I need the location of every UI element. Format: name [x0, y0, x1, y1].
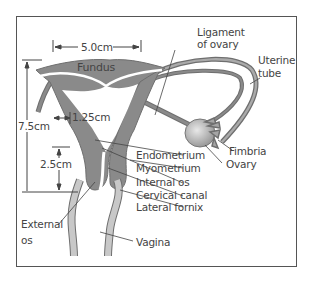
- height-label: 7.5cm: [18, 120, 50, 132]
- ligament-of-ovary-label-1: Ligament: [197, 26, 245, 38]
- fimbria-label: Fimbria: [229, 145, 266, 157]
- uterine-tube-label-2: tube: [258, 67, 281, 79]
- width-label: 5.0cm: [81, 41, 113, 53]
- endometrium-label: Endometrium: [136, 149, 205, 161]
- myometrium-label: Myometrium: [136, 162, 201, 174]
- external-os-label-1: External: [21, 218, 63, 230]
- uterine-tube-label-1: Uterine: [258, 54, 295, 66]
- wall-thickness-label: 1.25cm: [72, 111, 110, 123]
- cervix-length-label: 2.5cm: [40, 158, 72, 170]
- internal-os-label: Internal os: [136, 176, 190, 188]
- external-os-label-2: os: [21, 234, 33, 246]
- ovary-leader: [205, 145, 222, 163]
- vagina-label: Vagina: [136, 236, 170, 248]
- cervical-canal-label: Cervical canal: [136, 189, 207, 201]
- lateral-fornix-label: Lateral fornix: [136, 201, 203, 213]
- ovary-label: Ovary: [226, 158, 256, 170]
- vagina-leader: [100, 232, 133, 241]
- ligament-of-ovary-label-2: of ovary: [197, 38, 238, 50]
- fundus-label: Fundus: [77, 62, 115, 74]
- ligament-leader: [155, 50, 175, 115]
